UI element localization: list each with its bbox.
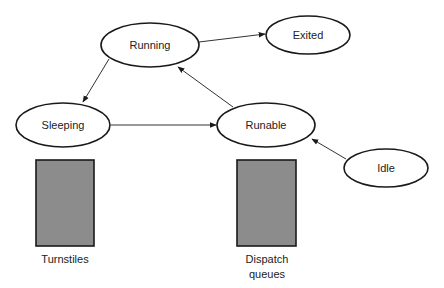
node-idle: Idle <box>344 149 428 187</box>
box-label-turnstiles: Turnstiles <box>41 253 89 265</box>
box-dispatch-queues: Dispatch queues <box>237 160 296 280</box>
node-label-runable: Runable <box>246 119 287 131</box>
box-label-queues: queues <box>249 268 286 280</box>
node-sleeping: Sleeping <box>16 103 110 147</box>
node-label-exited: Exited <box>293 29 324 41</box>
edge-idle-to-runable <box>312 139 346 159</box>
edge-running-to-sleeping <box>83 59 109 102</box>
box-turnstiles: Turnstiles <box>36 160 94 265</box>
edge-running-to-exited <box>199 34 265 42</box>
node-exited: Exited <box>266 16 350 54</box>
node-label-idle: Idle <box>377 162 395 174</box>
state-diagram: Running Exited Sleeping Runable Idle Tur… <box>0 0 444 288</box>
node-runable: Runable <box>217 103 315 147</box>
box-label-dispatch: Dispatch <box>246 253 289 265</box>
node-running: Running <box>101 23 199 67</box>
node-label-sleeping: Sleeping <box>42 119 85 131</box>
edge-runable-to-running <box>178 67 233 107</box>
node-label-running: Running <box>130 39 171 51</box>
